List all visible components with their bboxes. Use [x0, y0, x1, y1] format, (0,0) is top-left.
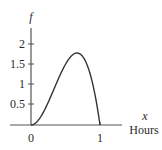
y-tick-label: 0.5: [10, 97, 25, 111]
y-axis-label: f: [29, 10, 34, 24]
y-tick-label: 1: [19, 77, 25, 91]
x-tick-label: 1: [97, 131, 103, 145]
density-chart: 2 1.5 1 0.5 0 1 f x Hours: [0, 0, 162, 150]
x-tick-label: 0: [28, 131, 34, 145]
x-axis-variable-label: x: [141, 109, 148, 123]
x-axis-unit-label: Hours: [129, 123, 159, 137]
density-curve: [31, 53, 100, 125]
y-tick-label: 1.5: [10, 57, 25, 71]
y-tick-label: 2: [19, 37, 25, 51]
